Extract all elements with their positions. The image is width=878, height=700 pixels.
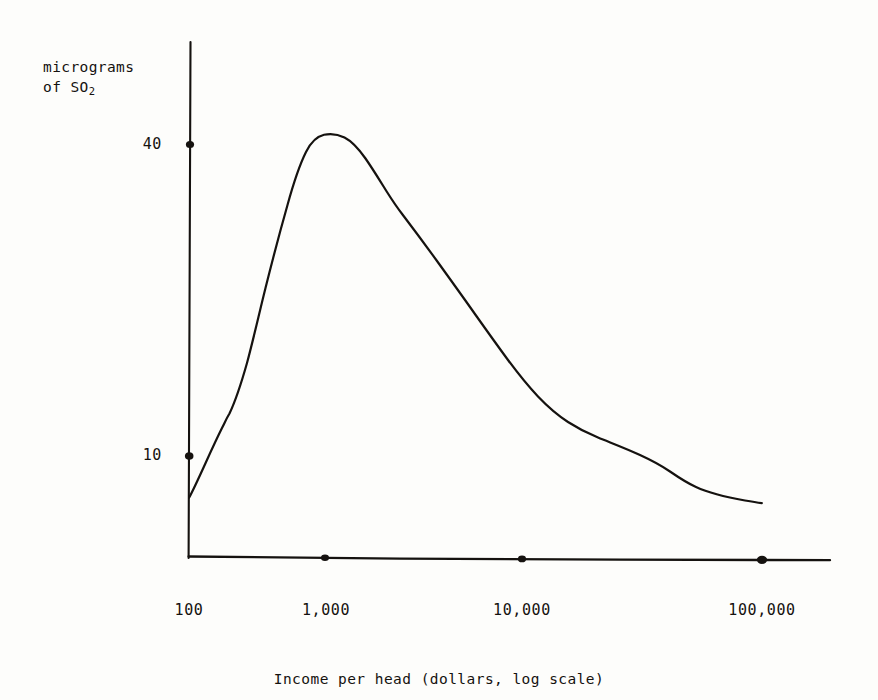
x-tick-label-1000: 1,000 — [278, 601, 374, 619]
y-axis-label: microgramsof SO2 — [43, 57, 134, 101]
y-tick-marker-10 — [185, 452, 194, 460]
x-axis-title: Income per head (dollars, log scale) — [0, 671, 878, 687]
y-axis-label-line1: micrograms — [43, 59, 134, 75]
x-axis-line — [189, 557, 830, 561]
x-tick-label-10000: 10,000 — [466, 601, 578, 619]
x-tick-label-100: 100 — [149, 601, 229, 619]
y-axis-line — [189, 42, 191, 558]
so2-curve — [189, 134, 762, 503]
x-tick-label-100000: 100,000 — [696, 601, 828, 619]
y-tick-label-40: 40 — [92, 135, 162, 153]
chart-plot-area — [0, 0, 878, 700]
y-tick-label-10: 10 — [92, 446, 162, 464]
y-axis-label-subscript: 2 — [89, 85, 96, 97]
x-tick-marker-100000 — [757, 556, 767, 564]
y-axis-label-line2-text: of SO — [43, 79, 89, 95]
y-tick-marker-40 — [186, 141, 194, 148]
y-axis-label-line2: of SO2 — [43, 79, 95, 95]
x-tick-marker-1000 — [321, 555, 329, 562]
chart-figure: microgramsof SO2 40 10 100 1,000 10,000 … — [0, 0, 878, 700]
x-tick-marker-10000 — [518, 556, 526, 563]
